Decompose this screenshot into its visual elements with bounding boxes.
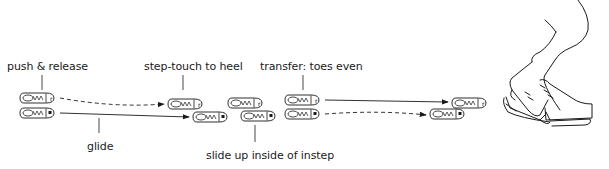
skate-icon-start-bottom [20,108,54,118]
skate-icon-slide-top: r [228,98,262,108]
skate-icon-step-bottom [193,112,227,122]
diagram-canvas: r r r r r [0,0,609,169]
arrow-solid-glide [60,113,189,117]
skate-icon-transfer-top: r [285,95,319,105]
arrow-dashed-push-to-step [60,98,164,105]
skate-icon-slide-bottom [241,111,275,121]
skate-icon-end-top: r [452,98,486,108]
skater-legs-illustration [504,0,593,126]
skate-icon-step-top: r [168,99,202,109]
skate-icon-end-bottom [430,109,464,119]
arrow-solid-transfer [325,100,448,102]
skate-icon-transfer-bottom [285,109,319,119]
arrow-dashed-transfer [325,112,426,115]
skate-icon-start-top: r [20,93,54,103]
